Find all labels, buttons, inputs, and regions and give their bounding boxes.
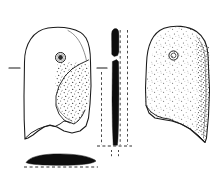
obverse-perforation-bore (58, 55, 63, 60)
archaeological-figure (0, 0, 223, 179)
figure-drawing-canvas (0, 0, 223, 179)
profile-upper-segment (112, 29, 119, 57)
